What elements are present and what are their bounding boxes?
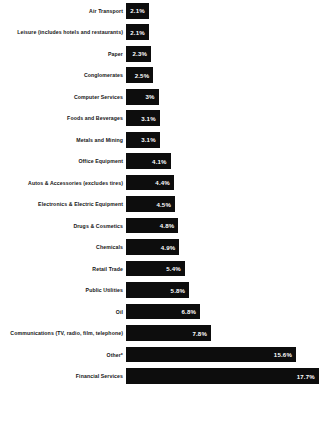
bar-category-label: Computer Services — [0, 94, 126, 100]
bar-row: Communications (TV, radio, film, telepho… — [0, 325, 319, 341]
bar-rows: Air Transport2.1%Leisure (includes hotel… — [0, 3, 319, 384]
bar-row: Electronics & Electric Equipment4.5% — [0, 196, 319, 212]
bar-category-label: Metals and Mining — [0, 137, 126, 143]
bar-category-label: Foods and Beverages — [0, 115, 126, 121]
bar-value-label: 4.5% — [156, 201, 171, 208]
bar-value-label: 4.4% — [155, 179, 170, 186]
bar: 6.8% — [126, 304, 200, 320]
bar-track: 3% — [126, 89, 319, 105]
bar-track: 4.5% — [126, 196, 319, 212]
bar-value-label: 7.8% — [192, 330, 207, 337]
bar-value-label: 4.1% — [152, 158, 167, 165]
bar-track: 5.8% — [126, 282, 319, 298]
bar: 15.6% — [126, 347, 296, 363]
bar-track: 6.8% — [126, 304, 319, 320]
bar-category-label: Autos & Accessories (excludes tires) — [0, 180, 126, 186]
bar-category-label: Air Transport — [0, 8, 126, 14]
bar-category-label: Public Utilities — [0, 287, 126, 293]
bar-value-label: 6.8% — [181, 308, 196, 315]
bar-row: Computer Services3% — [0, 89, 319, 105]
bar: 5.8% — [126, 282, 189, 298]
bar-track: 2.3% — [126, 46, 319, 62]
bar-row: Retail Trade5.4% — [0, 261, 319, 277]
bar: 4.4% — [126, 175, 174, 191]
bar-value-label: 4.8% — [160, 222, 175, 229]
bar-track: 4.4% — [126, 175, 319, 191]
bar-category-label: Paper — [0, 51, 126, 57]
bar-row: Paper2.3% — [0, 46, 319, 62]
bar-value-label: 15.6% — [274, 351, 292, 358]
bar-track: 5.4% — [126, 261, 319, 277]
bar-category-label: Conglomerates — [0, 72, 126, 78]
bar-category-label: Chemicals — [0, 244, 126, 250]
bar-category-label: Retail Trade — [0, 266, 126, 272]
bar: 7.8% — [126, 325, 211, 341]
bar-category-label: Oil — [0, 309, 126, 315]
bar-category-label: Electronics & Electric Equipment — [0, 201, 126, 207]
bar-value-label: 17.7% — [297, 373, 315, 380]
bar-row: Autos & Accessories (excludes tires)4.4% — [0, 175, 319, 191]
bar: 4.9% — [126, 239, 179, 255]
bar-track: 15.6% — [126, 347, 319, 363]
bar-row: Chemicals4.9% — [0, 239, 319, 255]
bar-category-label: Leisure (includes hotels and restaurants… — [0, 29, 126, 35]
bar: 4.8% — [126, 218, 178, 234]
bar-track: 3.1% — [126, 110, 319, 126]
bar-value-label: 5.4% — [166, 265, 181, 272]
bar: 2.1% — [126, 3, 149, 19]
bar-row: Other*15.6% — [0, 347, 319, 363]
bar-value-label: 2.5% — [135, 72, 150, 79]
bar-track: 4.1% — [126, 153, 319, 169]
bar: 2.3% — [126, 46, 151, 62]
bar-value-label: 2.1% — [130, 29, 145, 36]
bar-value-label: 5.8% — [171, 287, 186, 294]
bar-track: 3.1% — [126, 132, 319, 148]
bar-category-label: Office Equipment — [0, 158, 126, 164]
bar-category-label: Drugs & Cosmetics — [0, 223, 126, 229]
bar-value-label: 2.3% — [132, 50, 147, 57]
bar: 4.1% — [126, 153, 171, 169]
bar-track: 2.1% — [126, 24, 319, 40]
bar-track: 4.8% — [126, 218, 319, 234]
bar: 3.1% — [126, 110, 160, 126]
bar: 17.7% — [126, 368, 319, 384]
bar: 4.5% — [126, 196, 175, 212]
bar-row: Drugs & Cosmetics4.8% — [0, 218, 319, 234]
bar-row: Foods and Beverages3.1% — [0, 110, 319, 126]
bar-category-label: Communications (TV, radio, film, telepho… — [0, 330, 126, 336]
bar-category-label: Other* — [0, 352, 126, 358]
bar-track: 2.5% — [126, 67, 319, 83]
bar-track: 7.8% — [126, 325, 319, 341]
bar-chart: Air Transport2.1%Leisure (includes hotel… — [0, 0, 319, 443]
bar: 2.5% — [126, 67, 153, 83]
bar-value-label: 4.9% — [161, 244, 176, 251]
bar-track: 4.9% — [126, 239, 319, 255]
bar-row: Conglomerates2.5% — [0, 67, 319, 83]
bar-row: Metals and Mining3.1% — [0, 132, 319, 148]
bar-category-label: Financial Services — [0, 373, 126, 379]
bar-track: 2.1% — [126, 3, 319, 19]
bar: 3.1% — [126, 132, 160, 148]
bar-row: Financial Services17.7% — [0, 368, 319, 384]
bar-value-label: 2.1% — [130, 7, 145, 14]
bar: 5.4% — [126, 261, 185, 277]
bar-row: Air Transport2.1% — [0, 3, 319, 19]
bar-track: 17.7% — [126, 368, 319, 384]
bar-row: Oil6.8% — [0, 304, 319, 320]
bar: 3% — [126, 89, 159, 105]
bar-value-label: 3% — [146, 93, 155, 100]
bar-value-label: 3.1% — [141, 115, 156, 122]
bar-row: Office Equipment4.1% — [0, 153, 319, 169]
bar-row: Leisure (includes hotels and restaurants… — [0, 24, 319, 40]
bar-value-label: 3.1% — [141, 136, 156, 143]
bar-row: Public Utilities5.8% — [0, 282, 319, 298]
bar: 2.1% — [126, 24, 149, 40]
